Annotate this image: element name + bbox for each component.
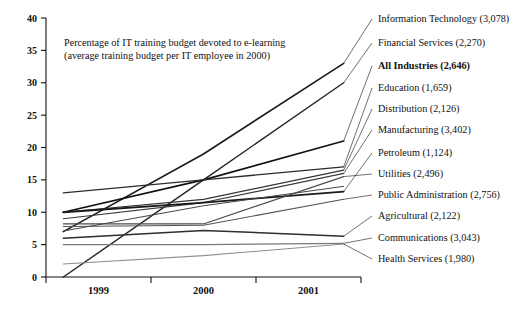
leader-line <box>344 109 372 170</box>
series-labels-group: Information Technology (3,078)Financial … <box>378 13 509 265</box>
y-axis-ticks: 0510152025303540 <box>27 13 46 283</box>
series-label-education: Education (1,659) <box>378 82 452 94</box>
series-line <box>63 243 343 244</box>
y-tick-label: 0 <box>32 272 37 283</box>
x-tick-label-2001: 2001 <box>298 285 319 296</box>
y-tick-label: 10 <box>27 207 37 218</box>
series-label-petroleum: Petroleum (1,124) <box>378 147 452 159</box>
y-tick-label: 30 <box>27 77 37 88</box>
series-label-public-administration: Public Administration (2,756) <box>378 189 500 201</box>
leader-line <box>344 88 372 167</box>
leader-line <box>344 19 372 63</box>
y-tick-label: 25 <box>27 110 37 121</box>
line-chart: 0510152025303540 199920002001 Informatio… <box>0 0 530 309</box>
leader-line <box>344 238 372 243</box>
leader-line <box>344 130 372 173</box>
series-label-manufacturing: Manufacturing (3,402) <box>378 124 471 136</box>
series-line <box>63 230 343 238</box>
leader-line <box>344 174 372 177</box>
leader-line <box>344 153 372 192</box>
series-label-agricultural: Agricultural (2,122) <box>378 210 460 222</box>
series-label-utilities: Utilities (2,496) <box>378 168 443 180</box>
y-tick-label: 40 <box>27 13 37 24</box>
series-line <box>63 244 343 264</box>
y-tick-label: 5 <box>32 239 37 250</box>
x-tick-label-2000: 2000 <box>193 285 214 296</box>
series-lines-group <box>63 63 343 277</box>
chart-container: 0510152025303540 199920002001 Informatio… <box>0 0 530 309</box>
caption-line-2: (average training budget per IT employee… <box>64 50 270 62</box>
x-tick-label-1999: 1999 <box>88 285 109 296</box>
series-line <box>63 141 343 212</box>
series-line <box>63 167 343 193</box>
series-label-distribution: Distribution (2,126) <box>378 103 460 115</box>
leader-line <box>344 244 372 259</box>
series-label-financial-services: Financial Services (2,270) <box>378 37 485 49</box>
series-label-health-services: Health Services (1,980) <box>378 253 474 265</box>
series-label-communications: Communications (3,043) <box>378 232 480 244</box>
y-tick-label: 20 <box>27 142 37 153</box>
y-tick-label: 15 <box>27 174 37 185</box>
leader-line <box>344 195 372 199</box>
series-label-all-industries: All Industries (2,646) <box>378 60 470 72</box>
series-line <box>63 177 343 224</box>
x-axis-labels: 199920002001 <box>88 285 319 296</box>
series-label-information-technology: Information Technology (3,078) <box>378 13 509 25</box>
caption-line-1: Percentage of IT training budget devoted… <box>64 37 285 48</box>
x-axis-ticks <box>46 277 361 283</box>
y-tick-label: 35 <box>27 45 37 56</box>
leader-lines-group <box>344 19 372 259</box>
leader-line <box>344 216 372 236</box>
series-line <box>63 63 343 231</box>
